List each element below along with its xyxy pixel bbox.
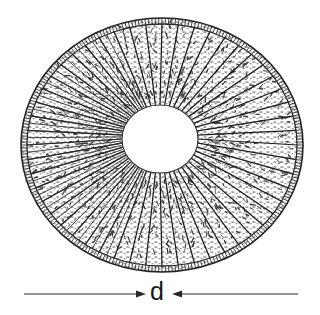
texture-fleck — [200, 169, 205, 170]
texture-fleck — [248, 174, 250, 175]
texture-fleck — [192, 245, 193, 247]
texture-fleck — [239, 136, 241, 137]
texture-fleck — [37, 143, 39, 144]
texture-fleck — [258, 177, 259, 179]
texture-fleck — [167, 249, 168, 254]
texture-fleck — [208, 231, 209, 234]
dimension-left-arrowhead — [136, 291, 146, 298]
texture-fleck — [31, 146, 33, 147]
texture-fleck — [227, 120, 228, 122]
texture-fleck — [85, 205, 86, 206]
texture-fleck — [227, 44, 228, 47]
texture-fleck — [235, 208, 236, 210]
texture-fleck — [209, 235, 210, 237]
texture-fleck — [126, 52, 127, 54]
texture-fleck — [181, 203, 182, 205]
texture-fleck — [83, 127, 85, 128]
texture-fleck — [226, 104, 228, 105]
texture-fleck — [141, 231, 142, 234]
disc-diagram — [0, 0, 320, 315]
texture-fleck — [35, 170, 37, 171]
texture-fleck — [171, 251, 172, 253]
texture-fleck — [225, 78, 229, 79]
texture-fleck — [180, 223, 181, 224]
dimension-right-arrowhead — [172, 291, 182, 298]
texture-fleck — [34, 177, 37, 178]
texture-fleck — [217, 220, 218, 222]
texture-fleck — [230, 127, 234, 128]
texture-fleck — [228, 61, 231, 62]
texture-fleck — [155, 38, 156, 40]
texture-fleck — [250, 205, 255, 206]
texture-fleck — [132, 88, 133, 90]
texture-fleck — [157, 182, 158, 185]
texture-fleck — [190, 184, 193, 185]
texture-fleck — [102, 98, 105, 99]
texture-fleck — [155, 185, 156, 186]
texture-fleck — [235, 111, 236, 113]
texture-fleck — [60, 85, 63, 86]
texture-fleck — [169, 25, 170, 28]
texture-fleck — [175, 56, 176, 58]
texture-fleck — [207, 70, 208, 73]
texture-fleck — [139, 250, 140, 252]
texture-fleck — [281, 136, 283, 137]
texture-fleck — [161, 92, 162, 94]
texture-fleck — [199, 166, 201, 167]
texture-fleck — [74, 134, 76, 135]
texture-fleck — [259, 88, 262, 89]
texture-fleck — [150, 193, 151, 196]
texture-fleck — [223, 184, 224, 186]
texture-fleck — [154, 225, 155, 227]
texture-fleck — [46, 180, 49, 181]
texture-fleck — [199, 112, 200, 114]
texture-fleck — [211, 155, 215, 156]
texture-fleck — [164, 95, 165, 98]
dimension-label-d: d — [150, 279, 164, 304]
texture-fleck — [86, 143, 88, 144]
texture-fleck — [76, 144, 81, 145]
texture-fleck — [136, 184, 137, 187]
central-hole — [122, 105, 198, 173]
texture-fleck — [203, 223, 204, 227]
texture-fleck — [246, 215, 249, 216]
texture-fleck — [223, 47, 224, 51]
texture-fleck — [157, 227, 158, 229]
figure-container: d — [0, 0, 320, 315]
texture-fleck — [55, 207, 56, 209]
texture-fleck — [185, 244, 186, 246]
texture-fleck — [59, 157, 63, 158]
texture-fleck — [219, 130, 222, 131]
texture-fleck — [172, 70, 173, 73]
texture-fleck — [171, 74, 172, 78]
texture-fleck — [199, 94, 200, 96]
texture-fleck — [246, 125, 249, 126]
